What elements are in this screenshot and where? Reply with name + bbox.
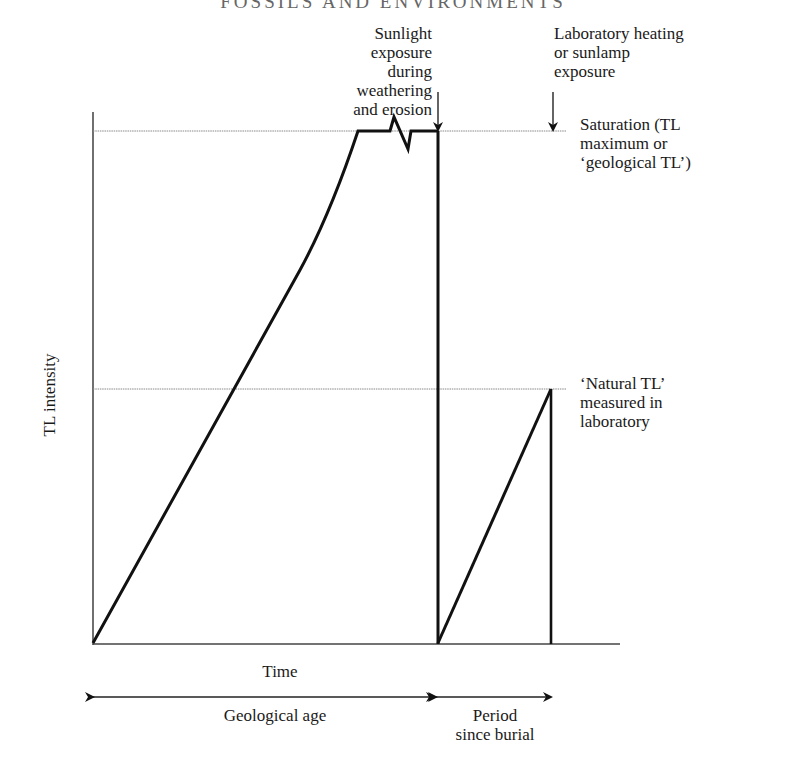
saturation-label: Saturation (TL maximum or ‘geological TL…: [580, 115, 691, 172]
geological-age-label: Geological age: [195, 706, 355, 725]
tl-growth-curve: [93, 117, 438, 643]
laboratory-heating-label: Laboratory heating or sunlamp exposure: [554, 24, 684, 81]
burial-growth-line: [438, 389, 551, 643]
period-since-burial-label: Period since burial: [440, 706, 550, 744]
x-axis-label: Time: [240, 662, 320, 681]
natural-tl-label: ‘Natural TL’ measured in laboratory: [580, 374, 665, 431]
y-axis-label: TL intensity: [40, 335, 60, 455]
sunlight-exposure-label: Sunlight exposure during weathering and …: [320, 24, 432, 119]
